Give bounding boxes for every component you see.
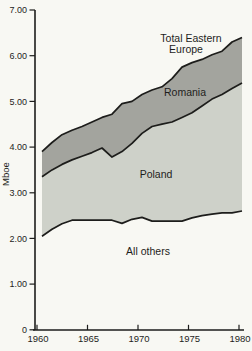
y-tick-label: 5.00 [9, 97, 27, 107]
y-tick-label: 6.00 [9, 51, 27, 61]
stacked-area-chart: 7.006.005.004.003.002.001.00019601965197… [0, 0, 252, 351]
figure-page: 7.006.005.004.003.002.001.00019601965197… [0, 0, 252, 351]
x-tick-label: 1960 [27, 333, 48, 344]
x-tick-label: 1965 [78, 333, 99, 344]
y-tick-label: 4.00 [9, 142, 27, 152]
y-tick-label: 1.00 [9, 279, 27, 289]
y-tick-label: 7.00 [9, 5, 27, 15]
annotation-total-eastern-europe-line2: Europe [169, 43, 203, 55]
annotation-romania: Romania [164, 86, 206, 98]
annotation-all-others: All others [126, 245, 170, 257]
x-tick-label: 1980 [229, 333, 250, 344]
x-tick-label: 1970 [128, 333, 149, 344]
y-tick-label: 2.00 [9, 234, 27, 244]
y-axis-title: Mboe [0, 162, 11, 186]
x-tick-label: 1975 [179, 333, 200, 344]
annotation-poland: Poland [140, 168, 173, 180]
y-tick-label: 3.00 [9, 188, 27, 198]
y-tick-label: 0 [22, 325, 27, 335]
